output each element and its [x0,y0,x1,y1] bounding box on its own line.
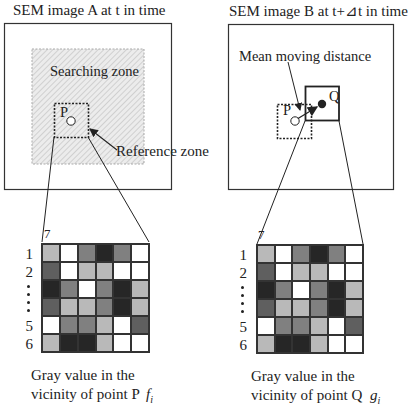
row-label-1: 1 [21,246,33,263]
grid-cell-r3-c5 [113,280,131,298]
grid-cell-r5-c5 [328,317,346,335]
grid-cell-r4-c2 [60,298,78,316]
grid-cell-r1-c6 [345,245,363,263]
grid-cell-r1-c1 [257,245,275,263]
grid-cell-r2-c4 [310,263,328,281]
grid-cell-r6-c1 [42,334,60,352]
grid-cell-r5-c6 [345,317,363,335]
grid-cell-r5-c2 [60,316,78,334]
point-p-b-label: P [283,102,291,119]
grid-cell-r2-c5 [113,262,131,280]
grid-cell-r4-c4 [310,299,328,317]
grid-cell-r2-c1 [257,263,275,281]
grid-cell-r6-c3 [78,334,96,352]
grid-cell-r4-c3 [78,298,96,316]
caption-q-line2: vicinity of point Q [251,386,362,405]
grid-cell-r6-c3 [292,335,310,353]
grid-cell-r1-c3 [78,244,96,262]
grid-cell-r4-c4 [96,298,114,316]
grid-cell-r4-c1 [257,299,275,317]
grid-cell-r3-c5 [328,281,346,299]
row-label-2: 2 [235,265,247,282]
grid-a-corner-label: 7 [44,226,51,242]
grid-cell-r4-c2 [275,299,293,317]
grid-cell-r6-c4 [96,334,114,352]
panel-b-title: SEM image B at t+⊿t in time [229,2,408,20]
grid-cell-r6-c2 [60,334,78,352]
row-label-6: 6 [21,336,33,353]
grid-cell-r1-c5 [328,245,346,263]
grid-cell-r4-c3 [292,299,310,317]
panel-a-title: SEM image A at t in time [13,2,166,19]
grid-cell-r3-c6 [345,281,363,299]
grid-cell-r1-c6 [131,244,149,262]
grid-cell-r4-c6 [131,298,149,316]
displacement-arrow [298,107,317,119]
grid-cell-r2-c6 [345,263,363,281]
grid-cell-r5-c1 [42,316,60,334]
point-q-label: Q [329,88,339,105]
grid-cell-r3-c1 [42,280,60,298]
grid-cell-r6-c1 [257,335,275,353]
grid-cell-r1-c4 [96,244,114,262]
caption-q-line1: Gray value in the [251,367,355,386]
grid-cell-r3-c2 [275,281,293,299]
grid-cell-r3-c3 [78,280,96,298]
grid-cell-r2-c6 [131,262,149,280]
grid-cell-r6-c6 [131,334,149,352]
caption-p-line2: vicinity of point P [31,385,140,404]
grid-cell-r3-c6 [131,280,149,298]
row-label-6: 6 [235,337,247,354]
searching-zone-label: Searching zone [50,63,139,80]
grid-cell-r3-c4 [310,281,328,299]
grid-cell-r6-c4 [310,335,328,353]
reference-zone-label: Reference zone [116,143,209,160]
grid-cell-r2-c4 [96,262,114,280]
grid-cell-r3-c4 [96,280,114,298]
grid-cell-r2-c1 [42,262,60,280]
grid-cell-r5-c2 [275,317,293,335]
zoom-line-left-b [257,121,305,244]
grid-cell-r5-c4 [310,317,328,335]
grid-cell-r5-c6 [131,316,149,334]
grid-cell-r2-c2 [60,262,78,280]
grid-cell-r1-c3 [292,245,310,263]
grid-cell-r1-c5 [113,244,131,262]
grid-cell-r5-c5 [113,316,131,334]
caption-p-line1: Gray value in the [31,366,135,385]
grid-cell-r3-c3 [292,281,310,299]
grid-cell-r2-c3 [78,262,96,280]
grid-cell-r6-c5 [113,334,131,352]
zoom-line-right-b [339,121,363,244]
grid-cell-r1-c2 [60,244,78,262]
grid-cell-r2-c3 [292,263,310,281]
grid-cell-r3-c2 [60,280,78,298]
grid-cell-r4-c5 [113,298,131,316]
grid-cell-r1-c4 [310,245,328,263]
grid-cell-r4-c6 [345,299,363,317]
grid-cell-r6-c2 [275,335,293,353]
point-q-marker [318,100,326,108]
grid-cell-r5-c1 [257,317,275,335]
grid-cell-r5-c3 [78,316,96,334]
grid-cell-r4-c1 [42,298,60,316]
symbol-g-i: gi [370,386,380,408]
grid-cell-r6-c5 [328,335,346,353]
gray-value-grid-q [256,244,364,354]
grid-cell-r3-c1 [257,281,275,299]
mean-moving-distance-label: Mean moving distance [239,48,371,65]
grid-cell-r2-c2 [275,263,293,281]
grid-cell-r2-c5 [328,263,346,281]
row-ellipsis [27,285,31,312]
row-label-5: 5 [21,318,33,335]
row-label-2: 2 [21,264,33,281]
grid-cell-r5-c3 [292,317,310,335]
grid-cell-r1-c2 [275,245,293,263]
row-label-5: 5 [235,319,247,336]
symbol-f-i: fi [146,385,153,408]
gray-value-grid-p [41,243,150,353]
grid-b-corner-label: 7 [258,227,265,243]
row-ellipsis [241,286,245,313]
row-label-1: 1 [235,247,247,264]
grid-cell-r4-c5 [328,299,346,317]
